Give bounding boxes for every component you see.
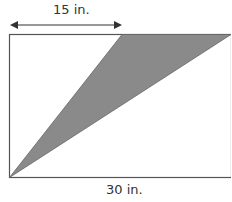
bottom-dimension-label: 30 in.: [106, 182, 143, 197]
top-dimension-label: 15 in.: [53, 2, 90, 17]
rectangle-diagram: [0, 0, 231, 202]
shaded-triangle: [10, 35, 232, 178]
